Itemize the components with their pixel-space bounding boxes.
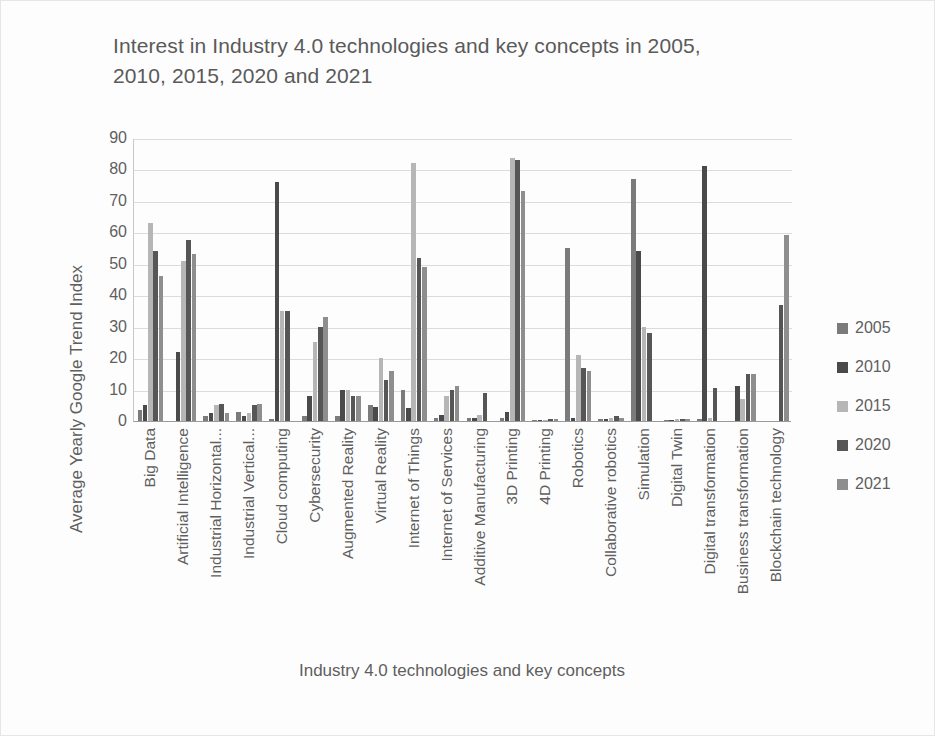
bar[interactable] (598, 419, 603, 421)
bar[interactable] (302, 416, 307, 421)
bar[interactable] (356, 396, 361, 421)
bar[interactable] (697, 419, 702, 422)
bar[interactable] (214, 405, 219, 421)
bar[interactable] (285, 311, 290, 421)
bar[interactable] (746, 374, 751, 421)
bar[interactable] (313, 342, 318, 421)
bar[interactable] (275, 182, 280, 421)
bar[interactable] (257, 404, 262, 421)
bar[interactable] (472, 418, 477, 421)
bar[interactable] (203, 416, 208, 421)
bar[interactable] (411, 163, 416, 421)
bar[interactable] (609, 418, 614, 421)
bar[interactable] (642, 327, 647, 421)
bar[interactable] (713, 388, 718, 421)
bar[interactable] (587, 371, 592, 421)
bar[interactable] (702, 166, 707, 421)
bar[interactable] (379, 358, 384, 421)
bar[interactable] (675, 419, 680, 421)
bar[interactable] (153, 251, 158, 421)
bar[interactable] (138, 410, 143, 421)
bar[interactable] (417, 258, 422, 422)
bar[interactable] (434, 418, 439, 421)
bar[interactable] (515, 160, 520, 421)
bar[interactable] (401, 390, 406, 421)
bar[interactable] (614, 416, 619, 421)
bar[interactable] (186, 240, 191, 421)
bar[interactable] (467, 418, 472, 421)
bar[interactable] (680, 419, 685, 421)
bar[interactable] (307, 396, 312, 421)
bar[interactable] (323, 317, 328, 421)
bar[interactable] (521, 191, 526, 421)
bar[interactable] (669, 420, 674, 421)
bar[interactable] (368, 405, 373, 421)
legend-item[interactable]: 2020 (837, 436, 929, 454)
legend-swatch-icon (837, 362, 848, 373)
bar[interactable] (708, 418, 713, 421)
bar[interactable] (209, 413, 214, 421)
bar[interactable] (505, 412, 510, 421)
bar[interactable] (192, 254, 197, 421)
bar[interactable] (181, 261, 186, 421)
bar[interactable] (543, 420, 548, 421)
bar[interactable] (571, 418, 576, 421)
bar[interactable] (735, 386, 740, 421)
bar[interactable] (538, 420, 543, 421)
bar[interactable] (247, 413, 252, 421)
legend-item[interactable]: 2021 (837, 475, 929, 493)
bar[interactable] (784, 235, 789, 421)
bar[interactable] (779, 305, 784, 421)
bar[interactable] (318, 327, 323, 421)
bar[interactable] (389, 371, 394, 421)
bar[interactable] (148, 223, 153, 421)
bar[interactable] (565, 248, 570, 421)
bar[interactable] (636, 251, 641, 421)
bar[interactable] (225, 413, 230, 421)
bar[interactable] (219, 404, 224, 421)
bar[interactable] (176, 352, 181, 421)
bar[interactable] (236, 412, 241, 421)
bar[interactable] (604, 419, 609, 422)
bar[interactable] (242, 416, 247, 421)
bar[interactable] (685, 419, 690, 421)
bar[interactable] (439, 415, 444, 421)
legend-item[interactable]: 2005 (837, 319, 929, 337)
bar[interactable] (581, 368, 586, 421)
bar[interactable] (252, 405, 257, 421)
bar[interactable] (664, 420, 669, 421)
bar[interactable] (576, 355, 581, 421)
bar[interactable] (351, 396, 356, 421)
bar[interactable] (751, 374, 756, 421)
y-axis-tick-60: 60 (87, 224, 127, 240)
bar[interactable] (455, 386, 460, 421)
bar[interactable] (548, 419, 553, 421)
bar[interactable] (159, 276, 164, 421)
bar[interactable] (406, 408, 411, 421)
bar[interactable] (444, 396, 449, 421)
legend-item[interactable]: 2010 (837, 358, 929, 376)
bar[interactable] (269, 419, 274, 421)
bar[interactable] (500, 418, 505, 421)
bar[interactable] (647, 333, 652, 421)
bar[interactable] (510, 158, 515, 421)
bar[interactable] (280, 311, 285, 421)
bar[interactable] (554, 419, 559, 421)
bar[interactable] (384, 380, 389, 421)
legend-item[interactable]: 2015 (837, 397, 929, 415)
bar[interactable] (346, 390, 351, 421)
bar[interactable] (532, 420, 537, 421)
bar[interactable] (483, 393, 488, 421)
bar[interactable] (335, 416, 340, 421)
bar[interactable] (422, 267, 427, 421)
x-axis-tick-label-cell: Cloud computing (265, 424, 298, 656)
x-axis-tick-label-cell: Blockchain technology (758, 424, 791, 656)
bar[interactable] (373, 407, 378, 421)
bar[interactable] (340, 390, 345, 421)
bar[interactable] (477, 415, 482, 421)
bar[interactable] (631, 179, 636, 421)
bar[interactable] (143, 405, 148, 421)
bar[interactable] (740, 399, 745, 421)
bar[interactable] (450, 390, 455, 421)
bar[interactable] (619, 418, 624, 421)
